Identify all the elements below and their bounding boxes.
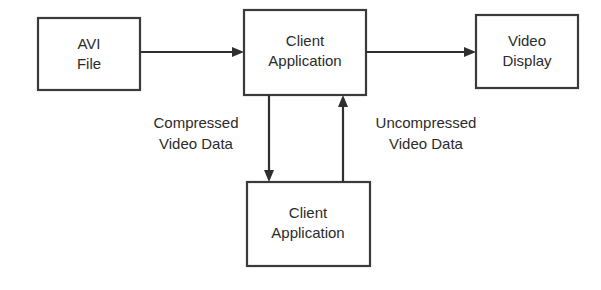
avi-file-label-line2: File — [77, 55, 101, 72]
arrow-head-client-to-display — [464, 47, 476, 57]
client-application-top-label-line2: Application — [268, 52, 341, 69]
node-client-application-top[interactable]: Client Application — [244, 10, 366, 95]
edge-uncompressed-video-data — [338, 95, 348, 182]
video-display-label-line1: Video — [508, 32, 546, 49]
edge-client-application-to-video-display — [366, 47, 476, 57]
uncompressed-video-data-line2: Video Data — [389, 135, 464, 152]
label-uncompressed-video-data: Uncompressed Video Data — [376, 114, 477, 152]
client-application-top-label-line1: Client — [286, 32, 325, 49]
node-client-application-bottom[interactable]: Client Application — [247, 182, 370, 266]
avi-file-label-line1: AVI — [77, 35, 100, 52]
arrow-head-compressed-down — [264, 170, 274, 182]
node-avi-file[interactable]: AVI File — [38, 18, 140, 90]
edge-avi-file-to-client-application — [140, 47, 244, 57]
uncompressed-video-data-line1: Uncompressed — [376, 114, 477, 131]
arrow-head-uncompressed-up — [338, 95, 348, 107]
diagram-canvas: AVI File Client Application Video Displa… — [0, 0, 601, 290]
compressed-video-data-line1: Compressed — [153, 114, 238, 131]
video-display-label-line2: Display — [502, 52, 552, 69]
edge-compressed-video-data — [264, 95, 274, 182]
label-compressed-video-data: Compressed Video Data — [153, 114, 238, 152]
flow-diagram: AVI File Client Application Video Displa… — [0, 0, 601, 290]
client-application-bottom-label-line1: Client — [289, 204, 328, 221]
client-application-bottom-label-line2: Application — [271, 224, 344, 241]
compressed-video-data-line2: Video Data — [159, 135, 234, 152]
node-video-display[interactable]: Video Display — [476, 15, 578, 88]
arrow-head-avi-to-client — [232, 47, 244, 57]
